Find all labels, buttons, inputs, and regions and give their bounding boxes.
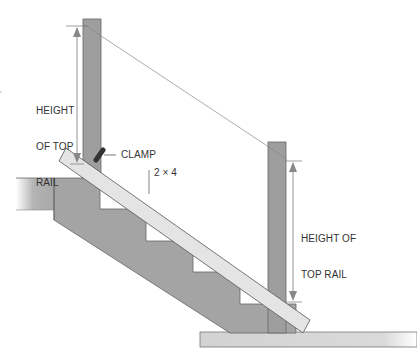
- left-height-label: HEIGHT OF TOP RAIL: [36, 81, 74, 201]
- clamp-icon: [96, 150, 116, 160]
- right-height-line-2: TOP RAIL: [301, 269, 356, 281]
- stair-stringer: [54, 178, 296, 333]
- clamp-label: CLAMP: [121, 149, 156, 161]
- floor-slab: [200, 332, 417, 347]
- left-height-line-3: RAIL: [36, 177, 74, 189]
- left-height-line-2: OF TOP: [36, 141, 74, 153]
- left-height-line-1: HEIGHT: [36, 105, 74, 117]
- top-rail-line: [83, 24, 287, 159]
- board-label: 2 × 4: [154, 167, 177, 179]
- right-height-dimension: [285, 161, 302, 302]
- right-height-label: HEIGHT OF TOP RAIL: [301, 209, 356, 293]
- right-height-line-1: HEIGHT OF: [301, 233, 356, 245]
